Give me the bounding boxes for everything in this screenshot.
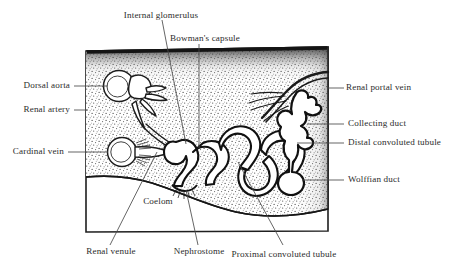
- label-dorsal-aorta: Dorsal aorta: [0, 80, 70, 91]
- label-renal-venule: Renal venule: [73, 246, 149, 257]
- label-collecting-duct: Collecting duct: [348, 118, 406, 129]
- label-distal-convoluted-tubule: Distal convoluted tubule: [348, 137, 441, 148]
- label-internal-glomerulus: Internal glomerulus: [105, 10, 217, 21]
- label-proximal-convoluted-tubule: Proximal convoluted tubule: [218, 249, 350, 260]
- label-wolffian-duct: Wolffian duct: [348, 174, 400, 185]
- label-coelom: Coelom: [128, 196, 188, 207]
- label-bowmans-capsule: Bowman's capsule: [150, 33, 260, 44]
- label-cardinal-vein: Cardinal vein: [0, 146, 64, 157]
- label-renal-portal-vein: Renal portal vein: [346, 82, 411, 93]
- nephron-diagram-figure: Internal glomerulus Bowman's capsule Dor…: [0, 0, 466, 267]
- label-renal-artery: Renal artery: [0, 104, 70, 115]
